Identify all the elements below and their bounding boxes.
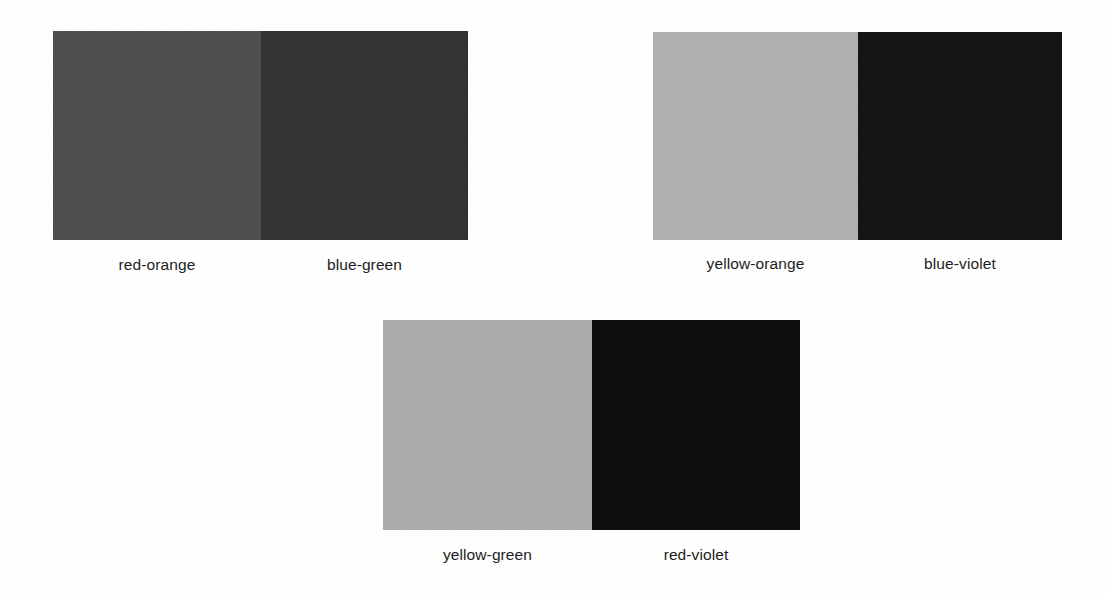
swatch-label-red-violet: red-violet bbox=[592, 545, 800, 565]
color-swatch-yellow-green bbox=[383, 320, 592, 530]
color-pairs-plate: red-orange blue-green yellow-orange blue… bbox=[0, 0, 1108, 594]
swatch-label-yellow-green: yellow-green bbox=[383, 545, 592, 565]
swatch-label-blue-violet: blue-violet bbox=[858, 254, 1062, 274]
swatch-strip-3 bbox=[383, 320, 800, 530]
color-swatch-red-orange bbox=[53, 31, 261, 240]
color-swatch-blue-violet bbox=[858, 32, 1062, 240]
swatch-label-red-orange: red-orange bbox=[53, 255, 261, 275]
complementary-pair-3: yellow-green red-violet bbox=[383, 0, 800, 594]
color-swatch-red-violet bbox=[592, 320, 800, 530]
swatch-label-row-3: yellow-green red-violet bbox=[383, 545, 800, 565]
